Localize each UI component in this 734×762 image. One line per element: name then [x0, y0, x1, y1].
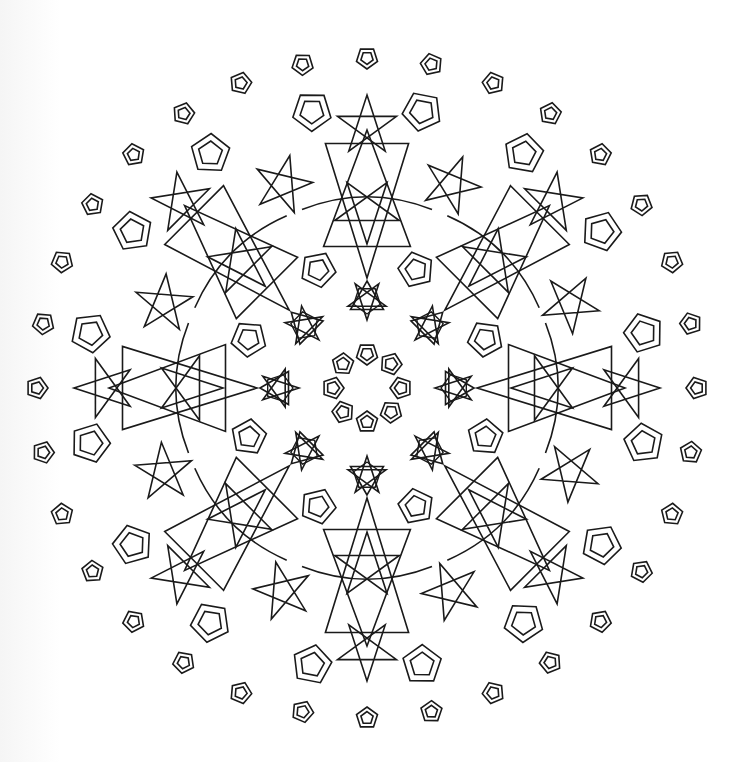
pentagon-inner: [361, 53, 373, 65]
pentagon-inner: [666, 508, 678, 520]
pentagon-outer: [74, 424, 110, 462]
pentagon-outer: [192, 134, 230, 171]
pentagon-outer: [332, 401, 352, 422]
pentagon-outer: [468, 323, 502, 357]
pentagon-inner: [591, 220, 614, 244]
pentagon-inner: [631, 321, 654, 345]
pentagon-inner: [590, 534, 613, 557]
pentagram-star: [541, 447, 598, 503]
pentagon-outer: [398, 252, 431, 286]
pentagon-outer: [191, 605, 229, 643]
pentagon-outer: [233, 419, 267, 453]
pentagon-inner: [337, 357, 350, 369]
pentagon-inner: [361, 415, 374, 427]
pentagon-outer: [302, 254, 336, 288]
connecting-arc: [176, 323, 189, 453]
pentagon-outer: [82, 194, 103, 215]
pentagon-outer: [231, 72, 251, 93]
connecting-arc: [447, 216, 539, 308]
pentagram-star: [525, 546, 583, 604]
pentagon-outer: [591, 144, 612, 165]
pentagon-inner: [691, 382, 703, 394]
pentagon-outer: [591, 612, 612, 633]
pentagon-outer: [469, 419, 503, 452]
pentagon-inner: [385, 407, 398, 419]
pentagon-outer: [398, 489, 432, 523]
pentagon-inner: [199, 141, 223, 164]
pentagon-inner: [198, 611, 221, 634]
pentagon-inner: [545, 107, 557, 119]
pentagon-inner: [487, 687, 499, 699]
pentagon-inner: [177, 657, 189, 669]
pentagon-inner: [239, 426, 259, 446]
pentagon-outer: [231, 324, 265, 357]
pentagon-inner: [38, 446, 50, 458]
pentagon-inner: [86, 198, 98, 210]
pentagram-star: [151, 546, 209, 604]
bowtie-triangle-outward: [436, 206, 549, 319]
pentagon-inner: [595, 616, 607, 628]
bowtie-inner-star: [208, 229, 272, 293]
pentagon-inner: [80, 431, 103, 455]
pentagon-outer: [231, 683, 251, 704]
pentagram-star: [257, 156, 313, 213]
pentagon-outer: [482, 683, 502, 704]
pentagon-outer: [539, 652, 559, 673]
bowtie-triangle-inward: [123, 346, 258, 429]
pentagon-inner: [336, 406, 348, 419]
pentagon-inner: [631, 431, 654, 454]
pentagon-outer: [293, 702, 313, 723]
pentagon-inner: [328, 382, 340, 395]
bowtie-triangle-outward: [185, 206, 298, 319]
pentagon-outer: [333, 353, 354, 373]
pentagram-star: [543, 278, 600, 334]
connecting-arc: [447, 468, 539, 560]
pentagon-inner: [178, 107, 190, 119]
pentagon-outer: [624, 314, 660, 352]
connecting-arc: [546, 323, 559, 453]
pentagon-inner: [684, 318, 696, 330]
bowtie-triangle-inward: [477, 346, 612, 429]
pentagon-outer: [482, 72, 502, 93]
pentagon-inner: [238, 330, 259, 350]
pentagon-inner: [410, 652, 434, 675]
pentagon-inner: [301, 652, 324, 675]
pentagon-inner: [636, 566, 648, 578]
pentagram-star: [426, 157, 482, 214]
pentagram-star: [253, 562, 309, 619]
pentagon-outer: [662, 503, 683, 523]
pentagon-outer: [584, 527, 622, 565]
pentagon-outer: [174, 103, 194, 124]
pentagon-outer: [293, 95, 331, 131]
pentagon-inner: [475, 330, 495, 350]
pentagon-inner: [235, 687, 247, 699]
pentagon-inner: [120, 533, 143, 557]
pentagon-inner: [297, 59, 309, 71]
pentagon-outer: [113, 212, 151, 250]
bowtie-triangle-inward: [325, 144, 408, 279]
pentagon-inner: [297, 706, 309, 718]
bowtie-triangle-outward: [324, 130, 411, 247]
pentagram-star: [421, 564, 477, 621]
pentagon-inner: [127, 616, 139, 628]
pentagon-inner: [309, 260, 329, 280]
pentagon-inner: [405, 496, 425, 516]
pentagon-inner: [512, 612, 536, 635]
pentagon-outer: [295, 645, 332, 683]
pentagon-outer: [303, 490, 336, 524]
pentagon-inner: [425, 705, 437, 717]
pentagon-inner: [127, 148, 139, 160]
connecting-arc: [195, 216, 287, 308]
pentagon-inner: [513, 141, 536, 164]
pentagon-outer: [33, 314, 54, 334]
pentagram-star: [135, 442, 192, 498]
pentagon-inner: [309, 496, 329, 517]
bowtie-triangle-outward: [109, 345, 226, 432]
pentagram-star: [136, 274, 193, 330]
pentagon-outer: [72, 316, 110, 353]
connecting-arc: [302, 567, 432, 580]
pentagon-inner: [405, 259, 425, 280]
pentagon-inner: [544, 657, 556, 669]
pentagon-outer: [662, 252, 683, 272]
pentagon-inner: [487, 77, 499, 89]
